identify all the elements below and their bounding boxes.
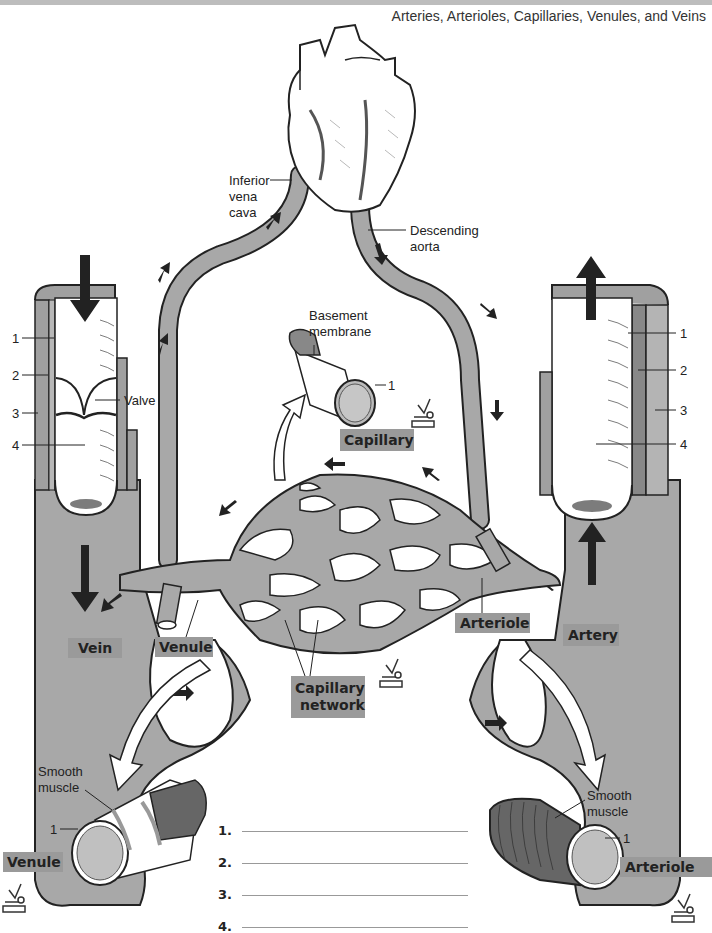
tag-arteriole-bottom: Arteriole bbox=[625, 859, 695, 875]
tag-vein: Vein bbox=[78, 640, 112, 656]
answer-number: 4. bbox=[218, 919, 242, 933]
basement-membrane-label-line2: membrane bbox=[309, 324, 371, 339]
smooth-muscle-left-line1: Smooth bbox=[38, 764, 83, 779]
answer-number: 2. bbox=[218, 855, 242, 870]
smooth-muscle-left-line2: muscle bbox=[38, 780, 79, 795]
artery-cross-section bbox=[540, 285, 668, 520]
circulatory-diagram: 1 Basement membrane 1 Smooth muscle 1 Sm… bbox=[0, 0, 712, 933]
tag-venule: Venule bbox=[159, 639, 213, 655]
descending-aorta-label-line1: Descending bbox=[410, 223, 479, 238]
tag-capillary-network-line1: Capillary bbox=[295, 680, 365, 696]
callout-arrow-capillary bbox=[274, 395, 305, 480]
venule-layer-1: 1 bbox=[50, 822, 57, 837]
answer-row-3: 3. bbox=[218, 870, 468, 902]
flow-arrow-icon bbox=[490, 400, 504, 421]
flow-arrow-icon bbox=[422, 467, 440, 481]
vein-layer-2: 2 bbox=[12, 368, 19, 383]
microscope-icon bbox=[3, 884, 25, 912]
inferior-vena-cava-label-line3: cava bbox=[229, 205, 257, 220]
microscope-icon bbox=[380, 659, 402, 687]
vein-layer-4: 4 bbox=[12, 438, 19, 453]
tag-venule-bottom: Venule bbox=[7, 854, 61, 870]
microscope-icon bbox=[412, 399, 434, 427]
microscope-icon bbox=[672, 894, 694, 922]
arteriole-layer-1: 1 bbox=[623, 831, 630, 846]
answer-number: 3. bbox=[218, 887, 242, 902]
artery-layer-2: 2 bbox=[680, 363, 687, 378]
capillary-layer-1: 1 bbox=[388, 378, 395, 393]
tag-arteriole: Arteriole bbox=[460, 615, 530, 631]
tag-artery: Artery bbox=[568, 627, 618, 643]
artery-layer-4: 4 bbox=[680, 437, 687, 452]
inferior-vena-cava-label-line2: vena bbox=[229, 189, 258, 204]
vein-layer-1: 1 bbox=[12, 331, 19, 346]
tag-capillary: Capillary bbox=[344, 432, 414, 448]
answer-blank-1[interactable] bbox=[242, 817, 468, 832]
flow-arrow-icon bbox=[158, 262, 170, 283]
smooth-muscle-right-line1: Smooth bbox=[587, 788, 632, 803]
valve-label: Valve bbox=[124, 393, 156, 408]
answer-number: 1. bbox=[218, 823, 242, 838]
basement-membrane-label-line1: Basement bbox=[309, 308, 368, 323]
artery-layer-3: 3 bbox=[680, 403, 687, 418]
flow-arrow-icon bbox=[480, 303, 497, 319]
flow-arrow-icon bbox=[324, 457, 345, 471]
inferior-vena-cava-label-line1: Inferior bbox=[229, 173, 270, 188]
answer-blanks: 1. 2. 3. 4. bbox=[218, 806, 468, 933]
answer-row-2: 2. bbox=[218, 838, 468, 870]
vein-layer-3: 3 bbox=[12, 406, 19, 421]
answer-row-1: 1. bbox=[218, 806, 468, 838]
capillary-illustration bbox=[289, 329, 375, 426]
artery-layer-1: 1 bbox=[680, 326, 687, 341]
heart-illustration bbox=[288, 25, 415, 212]
answer-blank-4[interactable] bbox=[242, 913, 468, 928]
answer-blank-2[interactable] bbox=[242, 849, 468, 864]
answer-row-4: 4. bbox=[218, 902, 468, 933]
descending-aorta-label-line2: aorta bbox=[410, 239, 440, 254]
flow-arrow-icon bbox=[219, 500, 237, 516]
smooth-muscle-right-line2: muscle bbox=[587, 804, 628, 819]
answer-blank-3[interactable] bbox=[242, 881, 468, 896]
tag-capillary-network-line2: network bbox=[300, 697, 366, 713]
